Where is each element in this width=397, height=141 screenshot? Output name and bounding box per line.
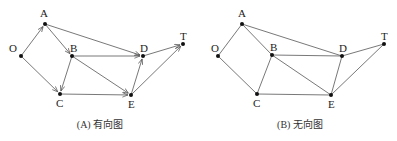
node-E — [329, 93, 333, 97]
node-label-E: E — [328, 98, 335, 110]
node-D — [340, 54, 344, 58]
node-label-E: E — [128, 98, 135, 110]
node-label-B: B — [70, 42, 77, 54]
node-C — [255, 92, 259, 96]
edge-D-T — [143, 45, 180, 56]
edge-O-A — [218, 24, 242, 56]
node-label-C: C — [253, 97, 260, 109]
graph-diagram: OABDTCE(A) 有向图 OABDTCE(B) 无向图 — [0, 0, 397, 141]
node-B — [70, 54, 74, 58]
edge-C-E — [60, 94, 128, 95]
node-label-T: T — [381, 30, 388, 42]
edge-O-C — [218, 56, 257, 94]
edge-B-D — [272, 55, 342, 56]
edge-C-E — [257, 94, 331, 95]
graph-caption: (A) 有向图 — [77, 118, 123, 131]
node-label-T: T — [180, 30, 187, 42]
edge-B-C — [61, 56, 72, 91]
node-B — [270, 53, 274, 57]
node-T — [181, 42, 185, 46]
node-label-C: C — [56, 97, 63, 109]
node-label-D: D — [140, 42, 148, 54]
node-O — [216, 54, 220, 58]
edge-B-E — [272, 55, 331, 95]
directed-graph: OABDTCE(A) 有向图 — [9, 7, 187, 131]
undirected-graph: OABDTCE(B) 无向图 — [211, 7, 388, 131]
node-O — [19, 54, 23, 58]
edge-B-E — [72, 56, 128, 93]
node-A — [43, 22, 47, 26]
node-label-D: D — [339, 42, 347, 54]
node-T — [382, 42, 386, 46]
node-label-O: O — [9, 42, 17, 54]
edge-A-D — [45, 24, 140, 55]
graph-caption: (B) 无向图 — [277, 118, 323, 131]
node-label-O: O — [211, 42, 219, 54]
edge-O-C — [21, 56, 58, 92]
node-A — [240, 22, 244, 26]
node-label-A: A — [40, 7, 48, 19]
node-D — [141, 54, 145, 58]
node-E — [129, 93, 133, 97]
node-label-A: A — [238, 7, 246, 19]
edge-E-D — [331, 56, 342, 95]
node-C — [58, 92, 62, 96]
edge-O-A — [21, 26, 43, 56]
node-label-B: B — [270, 41, 277, 53]
edge-B-C — [257, 55, 272, 94]
